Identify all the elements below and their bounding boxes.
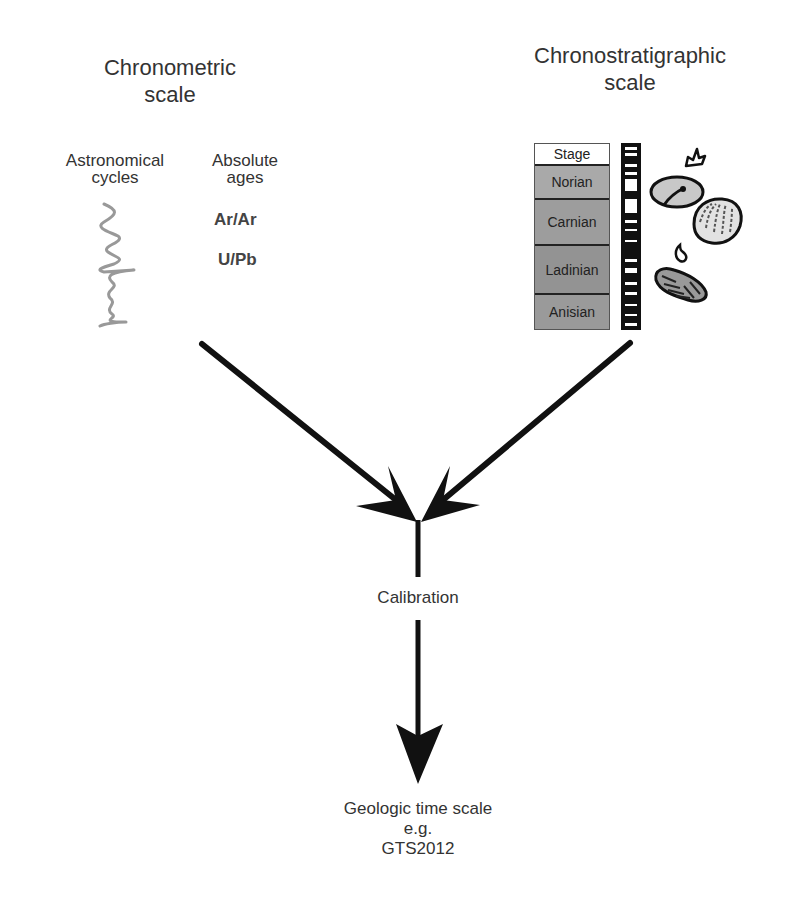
heading-line: Chronostratigraphic [500, 42, 760, 69]
stage-norian: Norian [535, 166, 609, 200]
result-line: Geologic time scale [298, 799, 538, 819]
stage-carnian: Carnian [535, 200, 609, 246]
astronomical-cycles-curve-icon [100, 204, 134, 326]
arrow-left-icon [202, 344, 417, 522]
result-line: e.g. [298, 819, 538, 839]
stage-ladinian: Ladinian [535, 246, 609, 295]
arrow-down-icon [396, 620, 443, 784]
absolute-ages-label: Absolute ages [195, 152, 295, 186]
calibration-label: Calibration [318, 588, 518, 608]
stage-header: Stage [535, 144, 609, 166]
heading-line: scale [500, 69, 760, 96]
flow-arrows [0, 0, 790, 906]
ostracod-fossil-icon [651, 177, 703, 207]
label-line: ages [195, 169, 295, 186]
stage-column: Stage Norian Carnian Ladinian Anisian [534, 143, 610, 330]
result-line: GTS2012 [298, 839, 538, 859]
conodont-fossil-icon [686, 149, 705, 166]
heading-line: scale [60, 81, 280, 108]
gastropod-fossil-icon [676, 245, 686, 261]
method-ar-ar: Ar/Ar [214, 210, 257, 230]
method-u-pb: U/Pb [218, 250, 257, 270]
bivalve-fossil-icon [694, 199, 741, 243]
chronometric-heading: Chronometric scale [60, 54, 280, 108]
magnetostratigraphy-column-icon [621, 143, 641, 330]
stage-anisian: Anisian [535, 295, 609, 329]
astronomical-cycles-label: Astronomical cycles [40, 152, 190, 186]
label-line: Astronomical [40, 152, 190, 169]
result-label: Geologic time scale e.g. GTS2012 [298, 799, 538, 859]
label-line: Absolute [195, 152, 295, 169]
heading-line: Chronometric [60, 54, 280, 81]
arrow-right-icon [421, 343, 630, 522]
chronostratigraphic-heading: Chronostratigraphic scale [500, 42, 760, 96]
ammonoid-fossil-icon [656, 268, 707, 301]
label-line: cycles [40, 169, 190, 186]
